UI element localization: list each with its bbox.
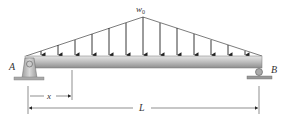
roller-support-b	[247, 69, 272, 80]
load-peak-label: w0	[136, 4, 145, 15]
load-arrows	[41, 17, 245, 55]
beam-diagram: w0 A B x L	[0, 0, 286, 128]
x-dimension-label: x	[46, 91, 51, 101]
support-a-label: A	[8, 61, 16, 72]
support-b-label: B	[271, 64, 277, 75]
span-dimension-label: L	[138, 102, 145, 113]
beam	[25, 56, 262, 68]
load-envelope	[26, 17, 262, 56]
